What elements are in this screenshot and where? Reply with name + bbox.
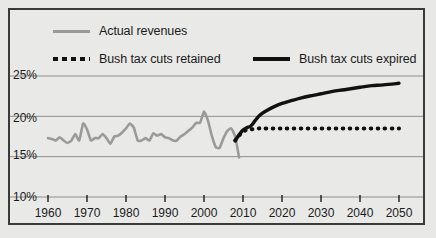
legend-item-bush-tax-cuts-expired: Bush tax cuts expired: [253, 52, 416, 66]
legend-label-bush-tax-cuts-expired: Bush tax cuts expired: [299, 52, 416, 66]
chart-frame: [8, 8, 425, 225]
y-tick-label-15: 15%: [13, 148, 37, 162]
legend-label-actual-revenues: Actual revenues: [99, 24, 187, 38]
x-tick-label-1960: 1960: [35, 206, 62, 220]
x-tick-label-2030: 2030: [308, 206, 335, 220]
x-tick-label-2010: 2010: [230, 206, 257, 220]
legend-swatch-solid-gray-icon: [53, 24, 90, 38]
x-tick-label-2000: 2000: [191, 206, 218, 220]
chart-figure: 25% 20% 15% 10% 1960 1970 1980 1990 2000…: [0, 0, 436, 238]
y-tick-label-10: 10%: [13, 190, 37, 204]
x-tick-label-2040: 2040: [347, 206, 374, 220]
y-tick-label-25: 25%: [13, 68, 37, 82]
x-tick-label-1970: 1970: [74, 206, 101, 220]
x-tick-label-1990: 1990: [152, 206, 179, 220]
x-tick-label-1980: 1980: [113, 206, 140, 220]
x-tick-label-2050: 2050: [386, 206, 413, 220]
y-tick-label-20: 20%: [13, 111, 37, 125]
legend-swatch-dotted-black-icon: [53, 52, 90, 66]
legend-item-bush-tax-cuts-retained: Bush tax cuts retained: [53, 52, 220, 66]
legend-swatch-solid-black-icon: [253, 52, 290, 66]
legend-label-bush-tax-cuts-retained: Bush tax cuts retained: [99, 52, 220, 66]
x-tick-label-2020: 2020: [269, 206, 296, 220]
legend-item-actual-revenues: Actual revenues: [53, 24, 187, 38]
